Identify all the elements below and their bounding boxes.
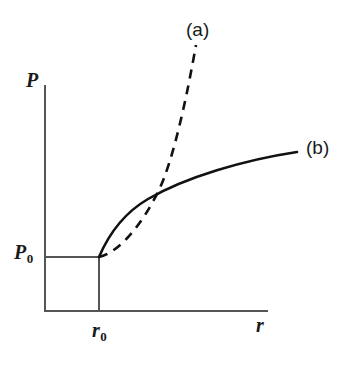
r0-tick-label: r0 bbox=[92, 320, 107, 343]
p0-tick-label: P0 bbox=[14, 242, 33, 265]
r0-base: r bbox=[92, 319, 100, 341]
plot-canvas bbox=[0, 0, 349, 365]
curve-a-dashed-path bbox=[99, 45, 196, 257]
r0-subscript: 0 bbox=[100, 329, 107, 344]
p0-base: P bbox=[14, 241, 26, 263]
p0-subscript: 0 bbox=[27, 251, 34, 266]
x-axis-label: r bbox=[256, 315, 264, 335]
curve-a-label: (a) bbox=[186, 20, 209, 39]
curve-b-label: (b) bbox=[306, 138, 329, 157]
curve-b-solid-path bbox=[99, 152, 297, 257]
y-axis-label: P bbox=[26, 70, 38, 90]
figure-container: P P0 r0 r (a) (b) bbox=[0, 0, 349, 365]
